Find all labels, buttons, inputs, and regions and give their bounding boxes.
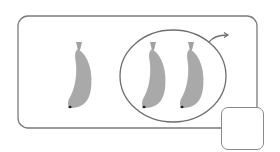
banana-icon <box>142 42 165 108</box>
group-circle <box>120 30 226 122</box>
exercise-figure <box>0 0 280 152</box>
banana-icon <box>68 42 91 108</box>
banana-icon <box>180 42 203 108</box>
answer-box[interactable] <box>221 107 264 150</box>
arrow-icon <box>209 33 228 43</box>
